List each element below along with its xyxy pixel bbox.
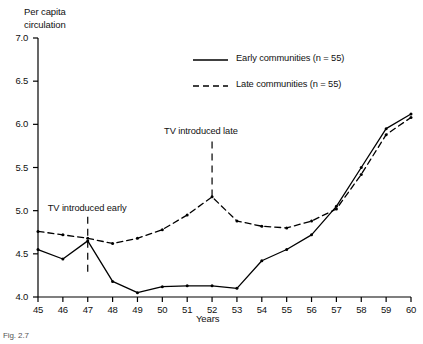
x-tick-label: 48 (103, 304, 123, 315)
x-tick-label: 47 (78, 304, 98, 315)
x-tick-label: 46 (53, 304, 73, 315)
data-point (385, 127, 388, 130)
data-point (410, 112, 413, 115)
data-point (86, 237, 89, 240)
chart-annotation: TV introduced late (164, 126, 238, 136)
data-point (136, 291, 139, 294)
data-point (211, 284, 214, 287)
data-point (86, 239, 89, 242)
x-tick-label: 49 (127, 304, 147, 315)
series-line-2 (38, 117, 411, 243)
data-point (235, 220, 238, 223)
x-tick-label: 45 (28, 304, 48, 315)
data-point (235, 287, 238, 290)
data-point (410, 116, 413, 119)
data-point (285, 248, 288, 251)
data-point (111, 242, 114, 245)
data-point (310, 220, 313, 223)
legend-label-2: Late communities (n = 55) (236, 79, 341, 89)
y-tick-label: 7.0 (4, 32, 28, 43)
x-tick-label: 56 (302, 304, 322, 315)
chart-annotation: TV introduced early (48, 203, 127, 213)
data-point (186, 213, 189, 216)
data-point (260, 225, 263, 228)
data-point (111, 280, 114, 283)
chart-figure: Per capita circulation Years 4.04.55.05.… (0, 0, 423, 344)
data-point (136, 237, 139, 240)
legend-label-1: Early communities (n = 55) (236, 53, 344, 63)
x-tick-label: 52 (202, 304, 222, 315)
y-tick-label: 6.5 (4, 75, 28, 86)
x-tick-label: 50 (152, 304, 172, 315)
data-point (285, 226, 288, 229)
data-point (186, 284, 189, 287)
x-tick-label: 60 (401, 304, 421, 315)
x-tick-label: 58 (351, 304, 371, 315)
x-tick-label: 54 (252, 304, 272, 315)
data-point (61, 258, 64, 261)
x-tick-label: 59 (376, 304, 396, 315)
data-point (335, 205, 338, 208)
data-point (211, 195, 214, 198)
data-point (161, 228, 164, 231)
data-point (37, 230, 40, 233)
y-tick-label: 5.0 (4, 205, 28, 216)
y-tick-label: 4.0 (4, 291, 28, 302)
y-tick-label: 5.5 (4, 162, 28, 173)
data-point (360, 166, 363, 169)
data-point (385, 133, 388, 136)
x-tick-label: 55 (277, 304, 297, 315)
x-tick-label: 51 (177, 304, 197, 315)
data-point (335, 207, 338, 210)
data-point (161, 285, 164, 288)
data-point (310, 233, 313, 236)
x-tick-label: 57 (326, 304, 346, 315)
y-tick-label: 4.5 (4, 248, 28, 259)
x-tick-label: 53 (227, 304, 247, 315)
data-point (37, 248, 40, 251)
plot-area (0, 0, 423, 344)
data-point (360, 173, 363, 176)
data-point (260, 259, 263, 262)
data-point (61, 233, 64, 236)
y-tick-label: 6.0 (4, 118, 28, 129)
figure-caption: Fig. 2.7 (3, 331, 29, 340)
